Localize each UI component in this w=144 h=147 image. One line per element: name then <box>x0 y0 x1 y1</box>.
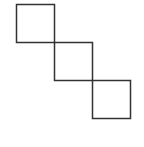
diagonal-squares-diagram <box>0 0 144 147</box>
square-1 <box>17 5 55 43</box>
square-2 <box>55 43 93 81</box>
square-3 <box>93 81 131 119</box>
